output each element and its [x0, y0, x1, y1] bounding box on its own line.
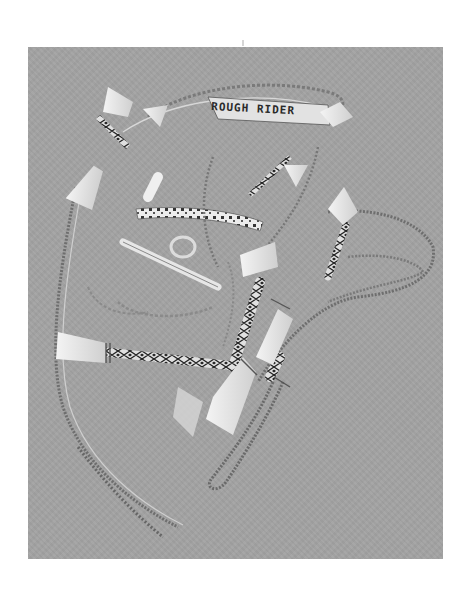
- tassel-large-left: [56, 332, 106, 363]
- check-strip: [136, 208, 263, 231]
- photograph: ROUGH RIDER: [28, 47, 443, 559]
- scan-mark: [242, 40, 244, 46]
- rein-tail: [78, 447, 163, 537]
- bridle-illustration: ROUGH RIDER: [28, 47, 443, 559]
- tassels: [56, 87, 358, 437]
- bit: [88, 237, 218, 316]
- headband: ROUGH RIDER: [208, 97, 330, 125]
